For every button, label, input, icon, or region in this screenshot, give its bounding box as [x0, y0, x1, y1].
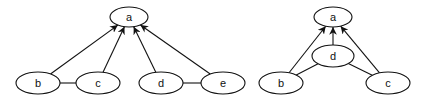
arrow-left-graph-b-a: [50, 25, 117, 74]
node-label: d: [158, 77, 164, 89]
node-label: c: [385, 77, 391, 89]
node-left-graph-e: e: [201, 72, 245, 94]
node-label: d: [330, 50, 336, 62]
nodes-layer: abcdeadbc: [16, 7, 410, 94]
node-label: a: [126, 11, 133, 23]
node-label: c: [95, 77, 101, 89]
node-left-graph-b: b: [16, 72, 60, 94]
node-left-graph-a: a: [110, 7, 148, 27]
node-label: a: [330, 11, 337, 23]
node-label: e: [220, 77, 226, 89]
node-right-graph-c: c: [366, 72, 410, 94]
diagram-canvas: abcdeadbc: [0, 0, 422, 102]
node-right-graph-a: a: [314, 7, 352, 27]
node-left-graph-c: c: [76, 72, 120, 94]
edge-right-graph-d-c: [348, 64, 372, 76]
node-right-graph-d: d: [312, 45, 354, 67]
arrow-left-graph-e-a: [140, 25, 210, 74]
node-label: b: [278, 77, 284, 89]
node-left-graph-d: d: [139, 72, 183, 94]
node-label: b: [35, 77, 41, 89]
edge-right-graph-d-b: [296, 64, 318, 75]
node-right-graph-b: b: [259, 72, 303, 94]
